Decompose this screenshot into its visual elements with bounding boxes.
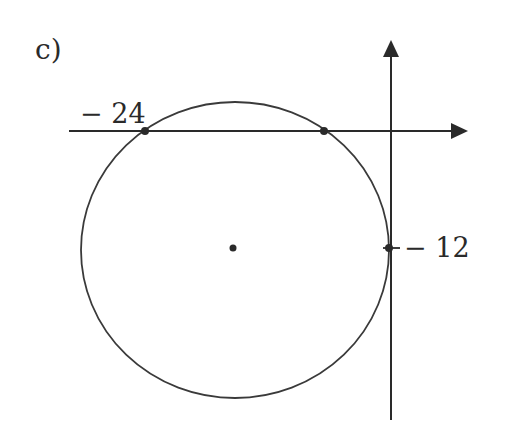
tangent-point bbox=[385, 244, 393, 252]
part-label: c) bbox=[35, 36, 62, 64]
diagram-canvas bbox=[0, 0, 507, 444]
x-axis-arrow-icon bbox=[451, 123, 468, 139]
y-axis-arrow-icon bbox=[383, 40, 399, 57]
x-intercept-right-point bbox=[320, 127, 328, 135]
circle-diagram: c) − 24 − 12 bbox=[0, 0, 507, 444]
y-tangent-label: − 12 bbox=[404, 234, 470, 261]
center-point bbox=[230, 245, 237, 252]
x-intercept-label: − 24 bbox=[80, 100, 146, 127]
